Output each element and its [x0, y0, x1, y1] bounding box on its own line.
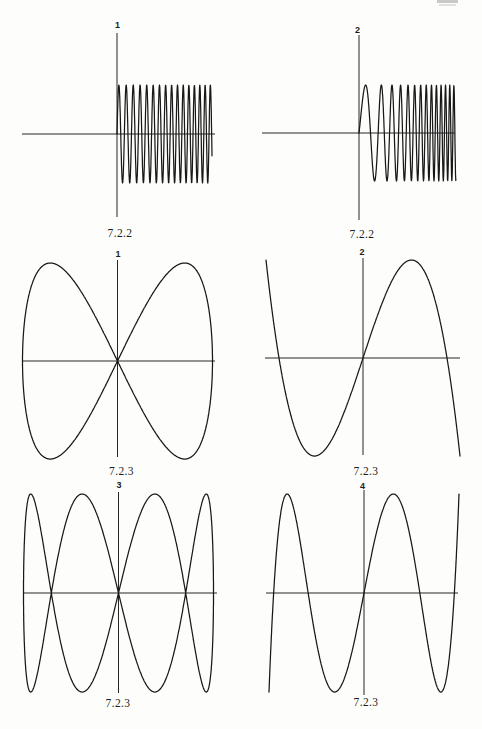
figure-number-7-2-3-1: 1: [115, 250, 120, 259]
figure-caption-7-2-3-1: 7.2.3: [109, 465, 134, 477]
figure-number-7-2-3-3: 3: [116, 481, 121, 490]
figure-number-7-2-3-4: 4: [360, 482, 365, 491]
figure-number-7-2-3-2: 2: [359, 248, 364, 257]
figure-caption-7-2-3-3: 7.2.3: [106, 697, 131, 709]
figure-caption-7-2-3-2: 7.2.3: [354, 465, 379, 477]
figure-caption-7-2-2-1: 7.2.2: [108, 227, 133, 239]
plots-canvas: [0, 0, 482, 729]
figure-number-7-2-2-1: 1: [115, 21, 120, 30]
book-page: 1 2 1 2 3 4 7.2.2 7.2.2 7.2.3 7.2.3 7.2.…: [0, 0, 482, 729]
figure-caption-7-2-3-4: 7.2.3: [354, 696, 379, 708]
figure-caption-7-2-2-2: 7.2.2: [350, 228, 375, 240]
figure-number-7-2-2-2: 2: [355, 26, 360, 35]
